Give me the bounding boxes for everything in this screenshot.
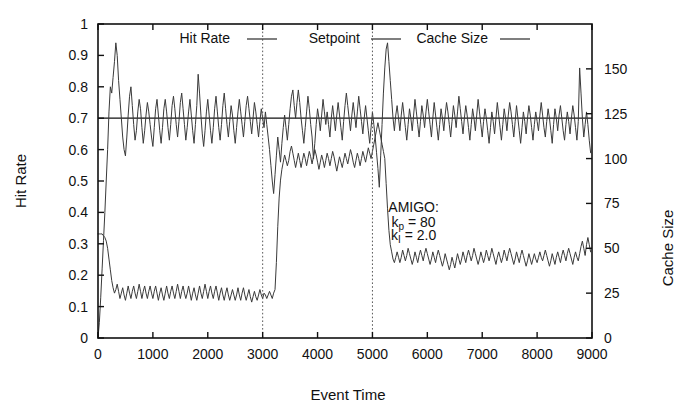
y-tick-label-6: 0.6: [69, 142, 89, 158]
y2-tick-label-2: 50: [604, 240, 620, 256]
y2-tick-label-6: 150: [604, 61, 628, 77]
legend-label-cache-size: Cache Size: [416, 30, 488, 46]
x-tick-label-2: 2000: [192, 346, 223, 362]
x-tick-label-0: 0: [94, 346, 102, 362]
y-axis-title: Hit Rate: [12, 154, 29, 208]
x-tick-label-6: 6000: [412, 346, 443, 362]
y2-tick-label-3: 75: [604, 195, 620, 211]
y2-tick-label-0: 0: [604, 330, 612, 346]
y-tick-label-7: 0.7: [69, 110, 89, 126]
y2-tick-label-4: 100: [604, 151, 628, 167]
y2-axis-title: Cache Size: [659, 210, 676, 287]
y-tick-label-4: 0.4: [69, 204, 89, 220]
y-tick-label-1: 0.1: [69, 299, 89, 315]
x-tick-label-8: 8000: [522, 346, 553, 362]
y-tick-label-10: 1: [80, 16, 88, 32]
y-tick-label-3: 0.3: [69, 236, 89, 252]
x-tick-label-4: 4000: [302, 346, 333, 362]
y-tick-label-9: 0.9: [69, 47, 89, 63]
x-tick-label-3: 3000: [247, 346, 278, 362]
legend-label-hit-rate: Hit Rate: [179, 30, 230, 46]
y2-tick-label-5: 125: [604, 106, 628, 122]
y-tick-label-8: 0.8: [69, 79, 89, 95]
legend-label-setpoint: Setpoint: [309, 30, 360, 46]
y-tick-label-2: 0.2: [69, 267, 89, 283]
x-tick-label-5: 5000: [357, 346, 388, 362]
annotation-group: AMIGO:kp = 80kI = 2.0: [388, 199, 439, 245]
x-tick-label-9: 9000: [576, 346, 607, 362]
x-tick-label-1: 1000: [137, 346, 168, 362]
x-tick-label-7: 7000: [467, 346, 498, 362]
chart-figure: 0100020003000400050006000700080009000 00…: [0, 0, 697, 413]
annotation-2: kI = 2.0: [391, 227, 436, 245]
y-tick-label-0: 0: [80, 330, 88, 346]
y2-tick-label-1: 25: [604, 285, 620, 301]
chart-canvas: 0100020003000400050006000700080009000 00…: [0, 0, 697, 413]
x-axis-title: Event Time: [310, 386, 385, 403]
y-tick-label-5: 0.5: [69, 173, 89, 189]
